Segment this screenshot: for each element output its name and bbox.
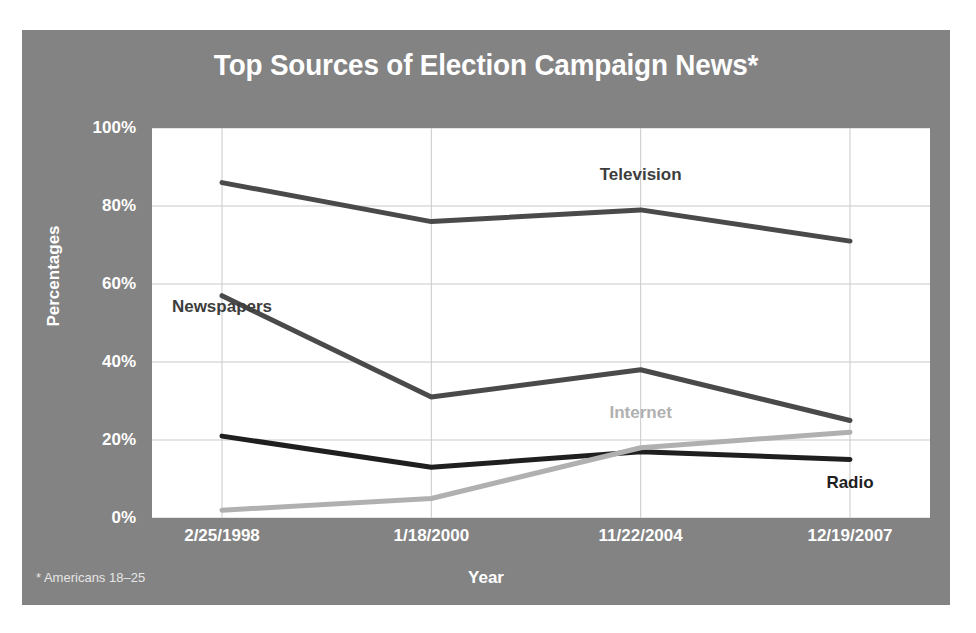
plot-area — [152, 128, 930, 518]
series-line-internet — [222, 432, 850, 510]
series-line-television — [222, 183, 850, 242]
chart-series-lines — [152, 128, 930, 518]
chart-figure: Top Sources of Election Campaign News* 0… — [22, 30, 950, 605]
y-tick-label: 80% — [102, 196, 136, 216]
chart-title: Top Sources of Election Campaign News* — [54, 48, 917, 82]
series-label-newspapers: Newspapers — [172, 297, 272, 317]
x-axis-title: Year — [22, 568, 950, 588]
x-axis-tick-labels: 2/25/19981/18/200011/22/200412/19/2007 — [152, 526, 930, 552]
series-label-radio: Radio — [826, 473, 873, 493]
x-tick-label: 1/18/2000 — [394, 526, 470, 546]
y-tick-label: 40% — [102, 352, 136, 372]
x-tick-label: 12/19/2007 — [807, 526, 892, 546]
series-label-internet: Internet — [609, 403, 671, 423]
y-tick-label: 60% — [102, 274, 136, 294]
series-line-newspapers — [222, 296, 850, 421]
y-tick-label: 0% — [111, 508, 136, 528]
x-tick-label: 11/22/2004 — [599, 526, 683, 546]
chart-footnote: * Americans 18–25 — [36, 570, 145, 585]
y-tick-label: 100% — [93, 118, 136, 138]
y-tick-label: 20% — [102, 430, 136, 450]
y-axis-tick-labels: 0%20%40%60%80%100% — [22, 128, 144, 518]
series-label-television: Television — [600, 165, 682, 185]
y-axis-title: Percentages — [44, 196, 64, 356]
x-tick-label: 2/25/1998 — [184, 526, 260, 546]
